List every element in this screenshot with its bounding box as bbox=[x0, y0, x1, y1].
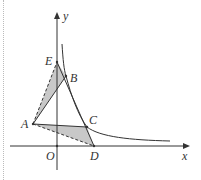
point-b bbox=[65, 75, 67, 77]
point-a bbox=[32, 123, 34, 125]
point-d bbox=[93, 145, 95, 147]
coordinate-diagram: y x O E B A C D bbox=[0, 0, 201, 180]
x-axis-label: x bbox=[181, 149, 188, 163]
label-d: D bbox=[89, 149, 99, 163]
y-axis-arrow-icon bbox=[54, 12, 60, 19]
y-axis-label: y bbox=[62, 9, 69, 23]
point-o bbox=[56, 145, 58, 147]
diagram-frame: y x O E B A C D bbox=[0, 0, 201, 180]
label-c: C bbox=[89, 113, 98, 127]
origin-label: O bbox=[46, 149, 55, 163]
point-c bbox=[86, 126, 88, 128]
label-b: B bbox=[70, 71, 78, 85]
label-e: E bbox=[44, 54, 53, 68]
label-a: A bbox=[20, 117, 29, 131]
point-e bbox=[56, 61, 58, 63]
